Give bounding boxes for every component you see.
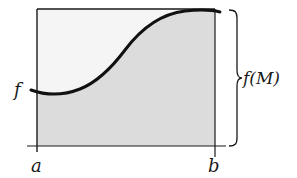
brace-label: f(M): [241, 68, 280, 88]
x-left-label: a: [31, 155, 42, 176]
x-right-label: b: [208, 155, 220, 176]
function-label: f: [12, 79, 24, 100]
diagram-canvas: f a b f(M): [0, 0, 297, 178]
curly-brace: [229, 10, 242, 146]
